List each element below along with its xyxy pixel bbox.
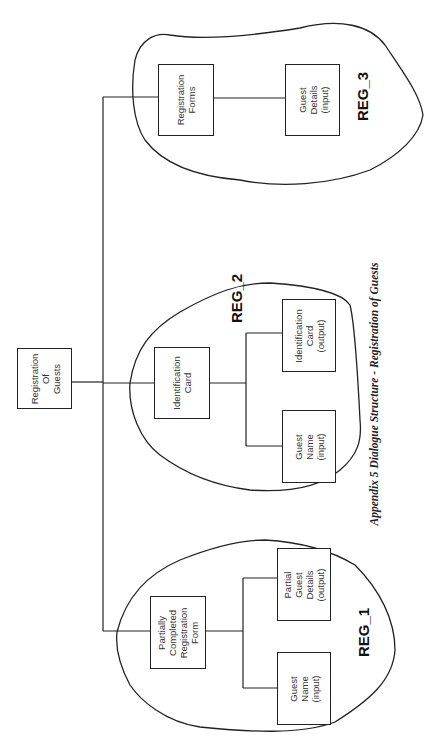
reg-3-child-node-1: Guest Details (input) — [285, 64, 340, 136]
reg-2-parent-label: Identification Card — [171, 356, 193, 409]
reg-2-label: REG_2 — [228, 274, 245, 323]
reg-2-child-node-2: Guest Name (input) — [282, 410, 336, 483]
root-node-registration-of-guests: Registration Of Guests — [17, 348, 72, 409]
figure-caption: Appendix 5 Dialogue Structure - Registra… — [368, 263, 380, 526]
reg-3-child-1-label: Guest Details (input) — [296, 85, 329, 114]
reg-1-label: REG_1 — [355, 608, 372, 657]
reg-1-child-node-2: Guest Name (input) — [277, 652, 331, 725]
root-node-label: Registration Of Guests — [28, 353, 61, 404]
reg-2-child-1-label: Identification Card (output) — [293, 309, 326, 362]
reg-1-child-node-1: Partial Guest Details (output) — [277, 548, 331, 621]
reg-3-parent-label: Registration Forms — [175, 75, 197, 126]
reg-3-parent-node: Registration Forms — [158, 64, 214, 136]
reg-2-parent-node: Identification Card — [154, 347, 210, 419]
reg-1-parent-label: Partially Completed Registration Form — [156, 607, 200, 658]
reg-1-child-1-label: Partial Guest Details (output) — [282, 568, 326, 601]
reg-1-child-2-label: Guest Name (input) — [288, 675, 321, 702]
reg-2-child-2-label: Guest Name (input) — [293, 433, 326, 460]
reg-1-parent-node: Partially Completed Registration Form — [150, 596, 206, 669]
reg-2-child-node-1: Identification Card (output) — [282, 299, 336, 372]
reg-3-label: REG_3 — [354, 72, 371, 121]
